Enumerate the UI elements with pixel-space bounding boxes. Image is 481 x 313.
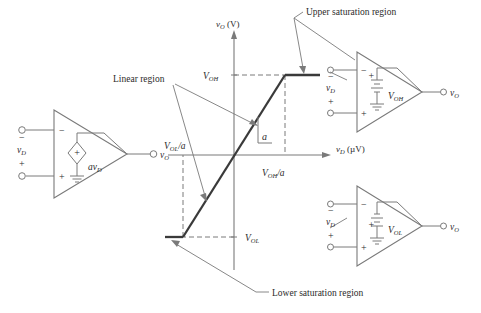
battery-label-lower: VOL xyxy=(388,225,403,236)
opamp-plus-sign-linear: + xyxy=(59,171,65,182)
vd-label-lower: vD xyxy=(326,217,335,228)
opamp-minus-sign-lower: − xyxy=(361,199,367,210)
upper-saturation-annotation: Upper saturation region xyxy=(306,7,396,17)
vol-tick-label: VOL xyxy=(245,233,260,244)
vd-minus-sign-linear: − xyxy=(19,132,25,143)
vd-plus-sign-linear: + xyxy=(19,158,25,169)
noninverting-input-terminal-linear xyxy=(19,173,26,180)
opamp-plus-sign-upper: + xyxy=(361,108,367,119)
opamp-transfer-characteristic-figure: − + − vD + + avD vO xyxy=(0,0,481,313)
lower-saturation-leader xyxy=(176,244,256,292)
slope-label: a xyxy=(262,131,267,142)
linear-region-annotation: Linear region xyxy=(113,74,165,84)
vd-minus-sign-lower: − xyxy=(328,205,334,216)
x-axis-arrow xyxy=(322,152,331,158)
upper-saturation-leader-to-curve xyxy=(294,18,303,68)
battery-label-upper: VOH xyxy=(388,91,404,102)
linear-region-opamp-model: − + − vD + + avD vO xyxy=(17,110,169,198)
source-to-output-wire-linear xyxy=(104,133,127,154)
figure-root: − + − vD + + avD vO xyxy=(0,0,481,313)
upper-saturation-leader xyxy=(294,18,355,60)
opamp-minus-sign-linear: − xyxy=(59,125,65,136)
lower-saturation-annotation: Lower saturation region xyxy=(272,288,364,298)
upper-saturation-leader-stub xyxy=(294,12,303,18)
lower-saturation-opamp-model: − + − vD + + VOL vO xyxy=(326,186,459,266)
output-terminal-upper xyxy=(441,89,447,95)
vd-plus-sign-upper: + xyxy=(328,96,334,107)
output-terminal-lower xyxy=(441,223,447,229)
vol-over-a-label: VOL/a xyxy=(164,141,186,152)
vd-plus-sign-lower: + xyxy=(328,230,334,241)
opamp-plus-sign-lower: + xyxy=(361,242,367,253)
upper-saturation-arrowhead xyxy=(299,66,306,74)
upper-saturation-opamp-model: − + − vD + + VOH vO xyxy=(326,52,459,132)
battery-plus-sign-upper: + xyxy=(369,70,375,81)
linear-region-arrowhead-lower xyxy=(200,193,207,202)
opamp-triangle-linear xyxy=(54,110,127,198)
dependent-source-label-linear: avD xyxy=(88,162,102,173)
y-axis-label: vO (V) xyxy=(216,19,239,30)
vd-minus-sign-upper: − xyxy=(328,71,334,82)
battery-to-output-wire-lower xyxy=(397,202,422,226)
vd-label-linear: vD xyxy=(17,145,26,156)
vo-label-upper: vO xyxy=(450,88,459,99)
opamp-minus-sign-upper: − xyxy=(361,65,367,76)
vd-label-upper: vD xyxy=(326,83,335,94)
voh-tick-label: VOH xyxy=(203,71,219,82)
battery-to-output-wire-upper xyxy=(397,68,422,92)
y-axis-arrow xyxy=(231,30,237,39)
transfer-characteristic-plot: vO (V) vD (µV) a VOH VOL VOL/a xyxy=(164,19,365,270)
x-axis-label: vD (µV) xyxy=(336,144,365,155)
vo-label-linear: vO xyxy=(160,150,169,161)
battery-plus-sign-lower: + xyxy=(369,219,375,230)
vo-label-lower: vO xyxy=(450,222,459,233)
noninverting-input-terminal-lower xyxy=(328,244,334,250)
linear-region-leader-upper xyxy=(175,84,254,124)
noninverting-input-terminal-upper xyxy=(328,110,334,116)
output-terminal-linear xyxy=(150,151,157,158)
voh-over-a-label: VOH/a xyxy=(262,168,285,179)
dependent-source-plus-sign: + xyxy=(74,147,80,158)
